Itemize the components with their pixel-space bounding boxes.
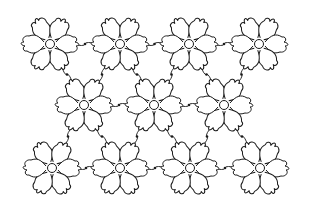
flower-center <box>186 164 195 173</box>
flower-center <box>116 164 125 173</box>
flower-center <box>150 101 159 110</box>
knot-dot <box>101 73 104 76</box>
knot-dot <box>85 167 88 170</box>
flower <box>21 14 79 73</box>
flower <box>195 75 253 134</box>
flower-center <box>220 101 229 110</box>
knot-dot <box>223 43 226 46</box>
knot-dot <box>67 135 70 138</box>
flower <box>125 75 183 134</box>
knot-dot <box>153 43 156 46</box>
flower-center <box>116 40 125 49</box>
knot-dot <box>136 135 139 138</box>
flower <box>55 75 113 134</box>
knot-dot <box>205 73 208 76</box>
flower <box>161 138 219 197</box>
knot-dot <box>241 135 244 138</box>
knot-dot <box>118 104 121 107</box>
flower-center <box>46 40 55 49</box>
flower <box>23 138 81 197</box>
knot-dot <box>171 135 174 138</box>
flower-center <box>48 164 57 173</box>
flower-center <box>256 164 265 173</box>
knot-dot <box>136 73 139 76</box>
knot-dot <box>240 73 243 76</box>
flower <box>91 138 149 197</box>
flower <box>230 14 288 73</box>
flower-pattern <box>0 0 310 211</box>
flower <box>91 14 149 73</box>
flower-center <box>80 101 89 110</box>
knot-dot <box>206 135 209 138</box>
flower <box>231 138 289 197</box>
knot-dot <box>84 43 87 46</box>
flower-center <box>255 40 264 49</box>
flowers <box>21 14 289 197</box>
knot-dot <box>66 73 69 76</box>
knot-dot <box>188 104 191 107</box>
knot-dot <box>224 167 227 170</box>
knot-dot <box>154 167 157 170</box>
flower <box>160 14 218 73</box>
flower-center <box>185 40 194 49</box>
knot-dot <box>101 135 104 138</box>
flower-pattern-svg <box>0 0 310 211</box>
knot-dot <box>170 73 173 76</box>
